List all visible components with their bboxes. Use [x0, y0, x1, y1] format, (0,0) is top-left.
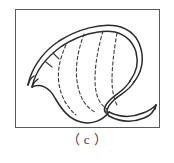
duodenum-cut-end [155, 105, 156, 109]
figure-caption: （ c ） [0, 132, 174, 148]
rugae-tick-lower [46, 62, 52, 67]
greater-curvature-contour [32, 85, 109, 122]
stomach-outer-wall-group [28, 25, 156, 123]
rugae-tick-upper [53, 53, 59, 59]
rugae-fold-1 [58, 45, 76, 115]
rugae-fold-2 [76, 34, 95, 112]
stomach-line-drawing [16, 10, 161, 129]
figure-panel: （ c ） [0, 0, 174, 163]
pylorus-duodenum-outer-contour [109, 105, 156, 116]
rugae-fold-3 [95, 31, 107, 109]
figure-frame-border [15, 9, 160, 128]
fundus-inner-contour [32, 31, 137, 87]
rugae-folds-group [46, 31, 117, 115]
pylorus-duodenum-inner-contour [109, 105, 156, 121]
